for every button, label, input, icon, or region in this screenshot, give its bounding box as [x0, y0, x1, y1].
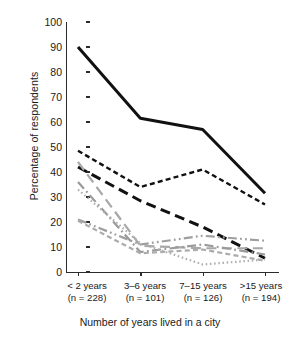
y-axis-tick-labels: 0102030405060708090100 [24, 0, 62, 337]
x-category-label: 7–15 years(n = 126) [174, 280, 232, 314]
series-line-series-2-short-dash-black [78, 151, 265, 205]
y-tick-label: 80 [28, 67, 62, 78]
y-tick-label: 30 [28, 192, 62, 203]
y-tick-label: 10 [28, 242, 62, 253]
x-tick-mark [78, 272, 79, 276]
x-axis-category-labels: < 2 years(n = 228)3–6 years(n = 101)7–15… [58, 280, 290, 314]
series-line-series-8-short-dash-gray [78, 221, 265, 261]
x-category-label: >15 years(n = 194) [232, 280, 290, 314]
x-category-count: (n = 126) [174, 292, 232, 304]
series-line-series-7-dash-dot-dot-gray [78, 220, 265, 245]
x-category-name: >15 years [232, 280, 290, 292]
x-axis-title: Number of years lived in a city [0, 316, 300, 328]
series-lines [66, 22, 279, 272]
y-tick-label: 20 [28, 217, 62, 228]
x-category-name: < 2 years [58, 280, 116, 292]
x-category-label: < 2 years(n = 228) [58, 280, 116, 314]
x-category-label: 3–6 years(n = 101) [116, 280, 174, 314]
series-line-series-1-solid-black [78, 47, 265, 193]
x-category-name: 7–15 years [174, 280, 232, 292]
x-tick-mark [203, 272, 204, 276]
chart-figure: Percentage of respondents 01020304050607… [0, 0, 300, 337]
y-tick-label: 50 [28, 142, 62, 153]
x-category-count: (n = 101) [116, 292, 174, 304]
x-category-count: (n = 228) [58, 292, 116, 304]
x-tick-mark [265, 272, 266, 276]
series-line-series-4-long-dash-gray [78, 162, 265, 248]
y-tick-label: 40 [28, 167, 62, 178]
y-tick-label: 60 [28, 117, 62, 128]
x-category-name: 3–6 years [116, 280, 174, 292]
y-tick-label: 100 [28, 17, 62, 28]
x-category-count: (n = 194) [232, 292, 290, 304]
plot-area [66, 22, 279, 272]
x-tick-mark [140, 272, 141, 276]
y-tick-label: 90 [28, 42, 62, 53]
y-tick-label: 70 [28, 92, 62, 103]
y-tick-label: 0 [28, 267, 62, 278]
